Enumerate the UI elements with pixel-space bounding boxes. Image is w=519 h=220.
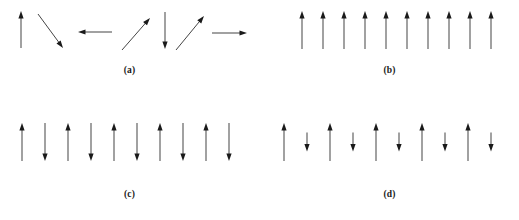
arrow-5 xyxy=(162,12,167,49)
arrow-head xyxy=(467,11,472,19)
arrow-6-down xyxy=(396,133,401,152)
panel-a-label: (a) xyxy=(0,66,259,76)
arrow-3-up xyxy=(65,123,70,161)
arrow-head xyxy=(19,123,24,131)
arrow-shaft xyxy=(176,21,200,50)
arrow-1-up xyxy=(281,123,286,161)
arrow-7-up xyxy=(157,123,162,161)
arrow-3 xyxy=(78,29,112,34)
arrow-5-up xyxy=(111,123,116,161)
arrow-head xyxy=(88,154,93,162)
panel-b-label: (b) xyxy=(260,66,519,76)
arrow-9-up xyxy=(465,123,470,161)
arrow-head xyxy=(226,154,231,162)
arrow-8-down xyxy=(442,133,447,152)
arrow-head xyxy=(299,11,304,19)
arrow-5-up xyxy=(383,11,388,49)
arrow-head xyxy=(203,123,208,131)
arrow-head xyxy=(304,144,309,152)
arrow-head xyxy=(180,154,185,162)
arrow-head xyxy=(446,11,451,19)
panel-d-arrows xyxy=(260,110,519,220)
arrow-10-down xyxy=(488,133,493,152)
panel-a-arrows xyxy=(0,0,259,110)
arrow-head xyxy=(341,11,346,19)
arrow-4-up xyxy=(362,11,367,49)
arrow-head xyxy=(162,42,167,50)
arrow-head xyxy=(157,123,162,131)
arrow-head xyxy=(396,144,401,152)
arrow-head xyxy=(281,123,286,131)
arrow-head xyxy=(488,11,493,19)
arrow-head xyxy=(18,11,23,19)
panel-a: (a) xyxy=(0,0,259,110)
arrow-2 xyxy=(38,14,63,48)
arrow-head xyxy=(111,123,116,131)
arrow-shaft xyxy=(38,14,59,43)
arrow-4-down xyxy=(350,133,355,152)
arrow-head xyxy=(425,11,430,19)
arrow-head xyxy=(362,11,367,19)
arrow-9-up xyxy=(203,123,208,161)
arrow-head xyxy=(42,154,47,162)
arrow-7 xyxy=(212,30,247,35)
arrow-head xyxy=(442,144,447,152)
arrow-2-up xyxy=(320,11,325,49)
arrow-head xyxy=(78,29,86,34)
arrow-6-down xyxy=(134,123,139,161)
arrow-5-up xyxy=(373,123,378,161)
arrow-1-up xyxy=(299,11,304,49)
arrow-7-up xyxy=(425,11,430,49)
arrow-head xyxy=(320,11,325,19)
arrow-10-up xyxy=(488,11,493,49)
arrow-8-up xyxy=(446,11,451,49)
arrow-8-down xyxy=(180,123,185,161)
arrow-head xyxy=(56,40,63,48)
arrow-6 xyxy=(176,16,204,50)
panel-b: (b) xyxy=(260,0,519,110)
arrow-7-up xyxy=(419,123,424,161)
panel-d-label: (d) xyxy=(260,190,519,200)
arrow-head xyxy=(240,30,248,35)
arrow-1 xyxy=(18,11,23,48)
arrow-head xyxy=(465,123,470,131)
panel-b-arrows xyxy=(260,0,519,110)
arrow-head xyxy=(65,123,70,131)
arrow-head xyxy=(383,11,388,19)
arrow-head xyxy=(488,144,493,152)
arrow-2-down xyxy=(304,133,309,152)
panel-c-arrows xyxy=(0,110,259,220)
panel-c-label: (c) xyxy=(0,190,259,200)
arrow-shaft xyxy=(122,23,146,50)
arrow-10-down xyxy=(226,123,231,161)
arrow-head xyxy=(327,123,332,131)
arrow-9-up xyxy=(467,11,472,49)
arrow-head xyxy=(350,144,355,152)
arrow-head xyxy=(419,123,424,131)
arrow-head xyxy=(134,154,139,162)
magnetic-ordering-figure: (a) (b) (c) (d) xyxy=(0,0,519,220)
arrow-head xyxy=(404,11,409,19)
arrow-3-up xyxy=(327,123,332,161)
panel-d: (d) xyxy=(260,110,519,220)
arrow-3-up xyxy=(341,11,346,49)
arrow-4 xyxy=(122,18,150,50)
arrow-1-up xyxy=(19,123,24,161)
arrow-2-down xyxy=(42,123,47,161)
panel-c: (c) xyxy=(0,110,259,220)
arrow-head xyxy=(373,123,378,131)
arrow-4-down xyxy=(88,123,93,161)
arrow-6-up xyxy=(404,11,409,49)
